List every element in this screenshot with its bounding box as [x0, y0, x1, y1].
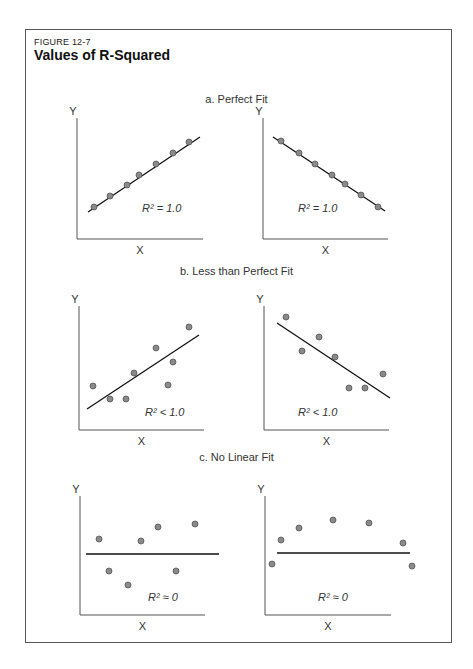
- data-point: [380, 371, 386, 377]
- plot-axes: [79, 306, 204, 430]
- data-point: [362, 385, 368, 391]
- regression-line: [87, 335, 199, 409]
- data-point: [90, 383, 96, 389]
- data-point: [342, 181, 348, 187]
- y-axis-label: Y: [256, 293, 264, 305]
- data-point: [153, 161, 159, 167]
- x-axis-label: X: [138, 435, 146, 447]
- data-point: [329, 172, 335, 178]
- x-axis-label: X: [136, 244, 144, 256]
- data-point: [124, 182, 130, 188]
- scatter-plot-3: YXR² < 1.0: [256, 293, 390, 447]
- data-point: [192, 521, 198, 527]
- r-squared-annotation: R² = 1.0: [142, 202, 182, 214]
- data-point: [330, 517, 336, 523]
- data-point: [358, 192, 364, 198]
- plot-axes: [77, 118, 203, 239]
- plot-axes: [263, 118, 388, 239]
- data-point: [400, 540, 406, 546]
- data-point: [269, 561, 275, 567]
- data-point: [186, 324, 192, 330]
- r-squared-annotation: R² < 1.0: [145, 406, 185, 418]
- scatter-plot-5: YXR² ≈ 0: [257, 483, 415, 632]
- x-axis-label: X: [323, 435, 331, 447]
- data-point: [173, 568, 179, 574]
- data-point: [186, 139, 192, 145]
- r-squared-annotation: R² ≈ 0: [148, 591, 179, 603]
- data-point: [165, 382, 171, 388]
- data-point: [91, 204, 97, 210]
- regression-line: [88, 137, 200, 212]
- data-point: [296, 525, 302, 531]
- y-axis-label: Y: [69, 105, 77, 117]
- y-axis-label: Y: [257, 483, 265, 495]
- plot-axes: [80, 496, 205, 615]
- data-point: [153, 345, 159, 351]
- y-axis-label: Y: [255, 105, 263, 117]
- scatter-plot-4: YXR² ≈ 0: [72, 483, 219, 632]
- data-point: [346, 385, 352, 391]
- data-point: [106, 568, 112, 574]
- data-point: [312, 161, 318, 167]
- data-point: [170, 359, 176, 365]
- data-point: [107, 193, 113, 199]
- x-axis-label: X: [324, 620, 332, 632]
- x-axis-label: X: [322, 244, 330, 256]
- data-point: [409, 563, 415, 569]
- data-point: [123, 396, 129, 402]
- scatter-plots: YXR² = 1.0YXR² = 1.0YXR² < 1.0YXR² < 1.0…: [0, 0, 473, 669]
- r-squared-annotation: R² = 1.0: [298, 202, 338, 214]
- data-point: [296, 150, 302, 156]
- data-point: [278, 138, 284, 144]
- data-point: [366, 520, 372, 526]
- data-point: [375, 204, 381, 210]
- data-point: [155, 524, 161, 530]
- r-squared-annotation: R² ≈ 0: [318, 591, 349, 603]
- data-point: [107, 396, 113, 402]
- data-point: [332, 354, 338, 360]
- r-squared-annotation: R² < 1.0: [298, 406, 338, 418]
- data-point: [96, 536, 102, 542]
- data-point: [170, 150, 176, 156]
- data-point: [136, 172, 142, 178]
- scatter-plot-1: YXR² = 1.0: [255, 105, 388, 256]
- y-axis-label: Y: [72, 483, 80, 495]
- x-axis-label: X: [139, 620, 147, 632]
- data-point: [125, 582, 131, 588]
- data-point: [131, 370, 137, 376]
- y-axis-label: Y: [71, 293, 79, 305]
- data-point: [278, 537, 284, 543]
- regression-line: [277, 323, 390, 398]
- scatter-plot-0: YXR² = 1.0: [69, 105, 203, 256]
- data-point: [299, 348, 305, 354]
- data-point: [283, 314, 289, 320]
- data-point: [138, 538, 144, 544]
- scatter-plot-2: YXR² < 1.0: [71, 293, 204, 447]
- data-point: [316, 334, 322, 340]
